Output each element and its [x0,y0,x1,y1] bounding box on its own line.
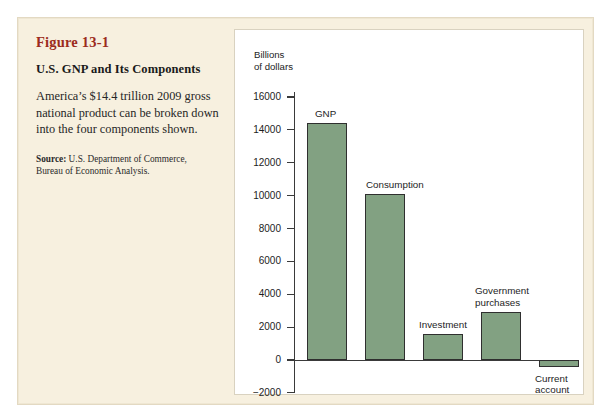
y-axis-line [294,92,295,393]
bar-label-gnp: GNP [315,108,336,119]
y-axis-tick-label: 6000 [259,255,281,266]
y-axis-tick [287,129,295,130]
source-label: Source: [36,154,66,164]
bar-current-account[interactable] [539,360,579,367]
y-axis-tick-label: 0 [275,354,281,365]
y-axis-tick [287,162,295,163]
y-axis-tick [287,359,295,360]
bar-label-government-purchases: Government purchases [475,285,529,308]
figure-source: Source: U.S. Department of Commerce, Bur… [36,153,216,178]
y-axis-tick [287,195,295,196]
bar-investment[interactable] [423,334,463,360]
figure-title: U.S. GNP and Its Components [36,62,216,77]
bar-label-current-account: Current account [535,373,569,396]
figure-container: Figure 13-1 U.S. GNP and Its Components … [17,17,594,405]
figure-description: America’s $14.4 trillion 2009 gross nati… [36,88,219,138]
y-axis-tick-label: 4000 [259,288,281,299]
y-axis-tick [287,96,295,97]
y-axis-tick [287,294,295,295]
x-axis-zero-line [294,360,577,361]
y-axis-tick-label: 16000 [253,91,281,102]
y-axis-tick-label: −2000 [253,387,281,398]
chart-panel: Billions of dollars 16000140001200010000… [234,29,584,395]
y-axis-tick-label: 10000 [253,190,281,201]
y-axis-title: Billions of dollars [254,49,293,72]
y-axis-tick-label: 14000 [253,124,281,135]
bar-consumption[interactable] [365,194,405,360]
y-axis-tick [287,327,295,328]
bar-label-investment: Investment [419,319,467,330]
bar-label-consumption: Consumption [366,179,424,190]
y-axis-tick-label: 8000 [259,223,281,234]
y-axis-tick [287,228,295,229]
figure-number: Figure 13-1 [36,34,216,51]
caption-panel: Figure 13-1 U.S. GNP and Its Components … [18,18,230,406]
bar-gnp[interactable] [307,123,347,360]
y-axis-tick-label: 2000 [259,321,281,332]
y-axis-tick [287,392,295,393]
chart-plot-area: Billions of dollars 16000140001200010000… [235,30,583,394]
y-axis-tick [287,261,295,262]
y-axis-tick-label: 12000 [253,157,281,168]
bar-government-purchases[interactable] [481,312,521,360]
